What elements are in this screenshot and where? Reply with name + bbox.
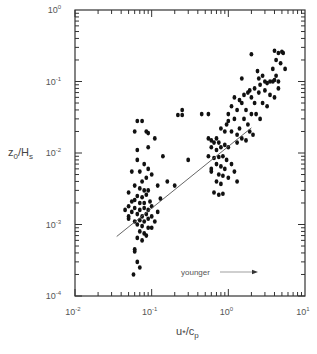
data-point (258, 83, 262, 88)
data-point (217, 193, 221, 198)
data-point (135, 194, 139, 199)
data-point (133, 129, 137, 134)
data-point (135, 158, 139, 163)
data-point (223, 129, 227, 134)
data-point (135, 148, 139, 153)
data-point (150, 214, 154, 219)
data-point (140, 119, 144, 124)
data-point (219, 182, 223, 187)
data-point (233, 169, 237, 174)
data-point (242, 93, 246, 98)
data-point (221, 174, 225, 179)
data-point (219, 126, 223, 131)
data-point (142, 188, 146, 193)
data-point (257, 90, 261, 95)
data-point (238, 98, 242, 103)
data-point (146, 217, 150, 222)
data-point (223, 143, 227, 148)
annotation-younger: younger (181, 268, 210, 277)
data-point (230, 129, 234, 134)
arrow-head-icon (252, 270, 258, 274)
data-point (217, 140, 221, 145)
data-point (127, 204, 131, 209)
data-point (273, 78, 277, 83)
data-point (283, 67, 287, 72)
data-point (156, 183, 160, 188)
data-point (244, 108, 248, 113)
data-point (156, 210, 160, 215)
data-point (254, 112, 258, 117)
data-point (138, 208, 142, 213)
data-point (138, 265, 142, 270)
data-point (153, 136, 157, 141)
data-point (135, 212, 139, 217)
data-point (209, 145, 213, 150)
data-point (215, 136, 219, 141)
data-point (138, 186, 142, 191)
data-point (135, 260, 139, 265)
data-point (173, 183, 177, 188)
data-point (207, 112, 211, 117)
data-point (123, 208, 127, 213)
data-point (242, 117, 246, 122)
scatter-chart: 10-210-110010110-410-310-210-1100 younge… (0, 0, 317, 354)
tick-label: 101 (296, 306, 310, 317)
data-point (146, 145, 150, 150)
data-point (180, 108, 184, 113)
data-point (133, 249, 137, 254)
data-point (258, 117, 262, 122)
data-point (225, 158, 229, 163)
data-point (127, 214, 131, 219)
data-point (238, 126, 242, 131)
data-point (277, 51, 281, 56)
data-point (133, 183, 137, 188)
data-point (212, 190, 216, 195)
tick-label: 10-3 (46, 219, 62, 230)
data-point (279, 61, 283, 66)
data-point (215, 162, 219, 167)
data-point (146, 188, 150, 193)
plot-frame (75, 10, 305, 296)
data-point (250, 95, 254, 100)
data-point (180, 113, 184, 118)
data-point (138, 169, 142, 174)
data-point (253, 86, 257, 91)
data-point (246, 122, 250, 127)
data-point (233, 95, 237, 100)
data-point (146, 167, 150, 172)
data-point (250, 112, 254, 117)
tick-label: 10-2 (65, 306, 81, 317)
data-point (130, 199, 134, 204)
data-point (140, 179, 144, 184)
data-point (135, 236, 139, 241)
data-point (226, 112, 230, 117)
tick-label: 100 (48, 4, 62, 15)
data-point (140, 238, 144, 243)
data-point (277, 86, 281, 91)
tick-label: 100 (220, 306, 234, 317)
data-point (144, 193, 148, 198)
data-point (273, 48, 277, 53)
data-point (223, 167, 227, 172)
data-point (256, 69, 260, 74)
data-point (251, 132, 255, 137)
data-point (253, 101, 257, 106)
data-point (130, 210, 134, 215)
data-point (271, 67, 275, 72)
data-point (219, 145, 223, 150)
data-point (248, 88, 252, 93)
data-point (277, 79, 281, 84)
data-point (235, 132, 239, 137)
data-point (148, 199, 152, 204)
data-point (217, 172, 221, 177)
data-point (165, 179, 169, 184)
data-points (123, 48, 287, 276)
data-point (240, 76, 244, 81)
data-point (233, 117, 237, 122)
axis-ticks (75, 10, 305, 296)
data-point (186, 158, 190, 163)
data-point (268, 93, 272, 98)
tick-label: 10-2 (46, 147, 62, 158)
data-point (142, 162, 146, 167)
data-point (142, 219, 146, 224)
